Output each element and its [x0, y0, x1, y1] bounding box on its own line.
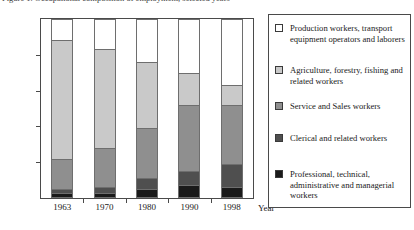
legend-swatch-icon: [275, 66, 283, 74]
legend-swatch-icon: [275, 102, 283, 110]
legend-item-clerical[interactable]: Clerical and related workers: [275, 133, 408, 144]
legend-swatch-icon: [275, 134, 283, 142]
bar-segment[interactable]: [221, 105, 243, 164]
x-axis-tick-label: 1963: [53, 203, 71, 213]
legend-label: Service and Sales workers: [290, 101, 380, 112]
legend-label: Production workers, transport equipment …: [290, 23, 408, 44]
bar-segment[interactable]: [221, 85, 243, 105]
bar-segment[interactable]: [221, 19, 243, 85]
legend-item-agriculture[interactable]: Agriculture, forestry, fishing and relat…: [275, 65, 408, 86]
bar-segment[interactable]: [51, 40, 73, 158]
legend-item-service-sales[interactable]: Service and Sales workers: [275, 101, 408, 112]
legend-label: Clerical and related workers: [290, 133, 387, 144]
bar-segment[interactable]: [94, 148, 116, 187]
legend-label: Professional, technical, administrative …: [290, 169, 408, 201]
bar-segment[interactable]: [178, 73, 200, 105]
x-axis-tick-mark: [168, 199, 169, 203]
bar-1980[interactable]: [136, 19, 158, 198]
bar-segment[interactable]: [94, 19, 116, 49]
legend-swatch-icon: [275, 24, 283, 32]
figure-caption-strip: Figure 1. Occupational composition of em…: [0, 0, 414, 7]
bar-1970[interactable]: [94, 19, 116, 198]
bar-segment[interactable]: [51, 193, 73, 198]
figure-occupational-composition: Figure 1. Occupational composition of em…: [0, 0, 414, 230]
x-axis-tick-label: 1998: [223, 203, 241, 213]
legend-list: Production workers, transport equipment …: [269, 15, 410, 207]
bar-1998[interactable]: [221, 19, 243, 198]
bar-segment[interactable]: [178, 185, 200, 198]
legend-swatch-icon: [275, 170, 283, 178]
x-axis-tick-label: 1970: [96, 203, 114, 213]
bar-segment[interactable]: [94, 193, 116, 198]
x-axis-tick-label: 1980: [138, 203, 156, 213]
x-axis-tick-mark: [211, 199, 212, 203]
bar-segment[interactable]: [178, 171, 200, 185]
x-axis-tick-mark: [83, 199, 84, 203]
bar-segment[interactable]: [221, 164, 243, 187]
bar-1990[interactable]: [178, 19, 200, 198]
bar-segment[interactable]: [136, 189, 158, 198]
bar-segment[interactable]: [136, 19, 158, 62]
bar-segment[interactable]: [94, 49, 116, 147]
legend-label: Agriculture, forestry, fishing and relat…: [290, 65, 408, 86]
legend-item-professional[interactable]: Professional, technical, administrative …: [275, 169, 408, 201]
bar-segment[interactable]: [136, 178, 158, 189]
x-axis-tick-mark: [126, 199, 127, 203]
bar-segment[interactable]: [136, 62, 158, 128]
bar-segment[interactable]: [51, 159, 73, 189]
bar-1963[interactable]: [51, 19, 73, 198]
y-axis: 0%20%40%60%80%100%: [0, 0, 40, 230]
x-axis-tick-label: 1990: [180, 203, 198, 213]
legend: Production workers, transport equipment …: [268, 14, 411, 208]
legend-item-production[interactable]: Production workers, transport equipment …: [275, 23, 408, 44]
bar-segment[interactable]: [178, 105, 200, 171]
bars-layer: [41, 19, 253, 198]
bar-segment[interactable]: [178, 19, 200, 73]
bar-segment[interactable]: [136, 128, 158, 178]
bar-segment[interactable]: [51, 19, 73, 40]
bar-segment[interactable]: [221, 187, 243, 198]
